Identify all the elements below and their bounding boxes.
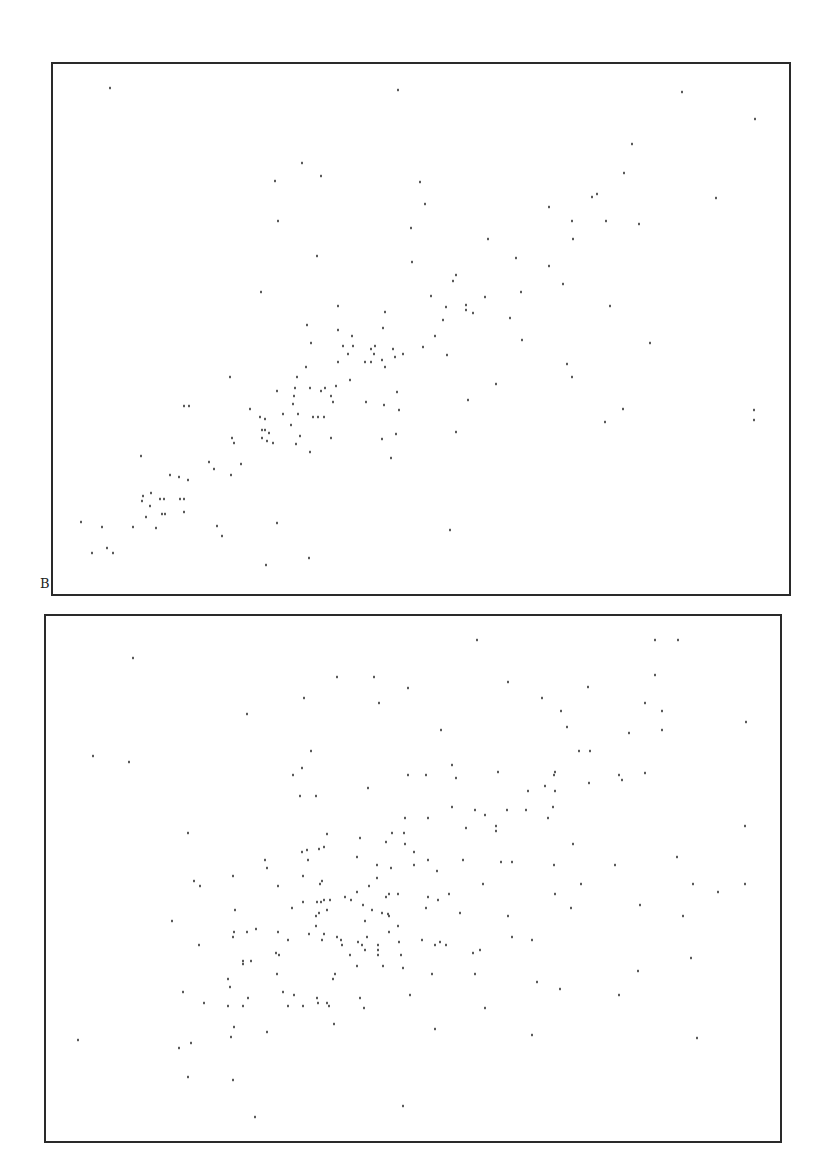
data-point	[572, 843, 574, 845]
data-point	[364, 920, 366, 922]
data-point	[317, 1002, 319, 1004]
data-point	[588, 782, 590, 784]
data-point	[407, 687, 409, 689]
data-point	[242, 960, 244, 962]
data-point	[264, 859, 266, 861]
data-point	[328, 1005, 330, 1007]
data-point	[333, 1023, 335, 1025]
data-point	[531, 1034, 533, 1036]
data-point	[434, 944, 436, 946]
data-point	[618, 994, 620, 996]
data-point	[690, 957, 692, 959]
data-point	[402, 967, 404, 969]
data-point	[474, 973, 476, 975]
data-point	[661, 729, 663, 731]
data-point	[316, 997, 318, 999]
data-point	[255, 928, 257, 930]
data-point	[578, 750, 580, 752]
data-point	[193, 880, 195, 882]
data-point	[277, 931, 279, 933]
data-point	[242, 1005, 244, 1007]
data-point	[291, 907, 293, 909]
data-point	[227, 978, 229, 980]
data-point	[381, 912, 383, 914]
data-point	[544, 785, 546, 787]
data-point	[421, 939, 423, 941]
data-point	[437, 899, 439, 901]
data-point	[368, 885, 370, 887]
data-point	[340, 939, 342, 941]
data-point	[234, 909, 236, 911]
data-point	[476, 639, 478, 641]
data-point	[400, 954, 402, 956]
data-point	[382, 965, 384, 967]
data-point	[254, 1116, 256, 1118]
data-point	[356, 965, 358, 967]
data-point	[554, 893, 556, 895]
data-point	[676, 856, 678, 858]
data-point	[310, 750, 312, 752]
data-point	[128, 761, 130, 763]
data-point	[434, 1028, 436, 1030]
data-point	[455, 777, 457, 779]
data-point	[451, 764, 453, 766]
scatter-panel-bottom	[0, 0, 831, 1169]
data-point	[644, 772, 646, 774]
data-point	[465, 827, 467, 829]
data-point	[436, 870, 438, 872]
data-point	[511, 936, 513, 938]
data-point	[377, 954, 379, 956]
data-point	[427, 859, 429, 861]
data-point	[301, 851, 303, 853]
data-point	[232, 875, 234, 877]
data-point	[229, 986, 231, 988]
bottom-panel-frame	[45, 615, 781, 1142]
data-point	[397, 925, 399, 927]
data-point	[580, 883, 582, 885]
data-point	[560, 710, 562, 712]
data-point	[570, 907, 572, 909]
data-point	[507, 681, 509, 683]
data-point	[292, 774, 294, 776]
data-point	[497, 771, 499, 773]
data-point	[326, 909, 328, 911]
data-point	[190, 1042, 192, 1044]
data-point	[247, 997, 249, 999]
scatter-plot-bottom	[0, 0, 831, 1169]
data-point	[232, 1079, 234, 1081]
data-point	[413, 864, 415, 866]
data-point	[367, 787, 369, 789]
data-point	[329, 899, 331, 901]
data-point	[187, 832, 189, 834]
data-point	[326, 833, 328, 835]
data-point	[299, 795, 301, 797]
data-point	[403, 832, 405, 834]
data-point	[319, 883, 321, 885]
data-point	[278, 954, 280, 956]
data-point	[654, 639, 656, 641]
data-point	[462, 859, 464, 861]
data-point	[552, 806, 554, 808]
data-point	[448, 893, 450, 895]
data-point	[315, 795, 317, 797]
data-point	[321, 939, 323, 941]
data-point	[451, 806, 453, 808]
data-point	[621, 779, 623, 781]
data-point	[440, 729, 442, 731]
data-point	[385, 896, 387, 898]
data-point	[388, 931, 390, 933]
data-point	[301, 767, 303, 769]
data-point	[334, 973, 336, 975]
data-point	[332, 978, 334, 980]
data-point	[378, 702, 380, 704]
data-point	[495, 830, 497, 832]
data-point	[531, 939, 533, 941]
data-point	[402, 1105, 404, 1107]
data-point	[541, 697, 543, 699]
data-point	[246, 713, 248, 715]
data-point	[377, 949, 379, 951]
data-point	[376, 877, 378, 879]
data-point	[661, 710, 663, 712]
data-point	[507, 915, 509, 917]
data-point	[303, 697, 305, 699]
